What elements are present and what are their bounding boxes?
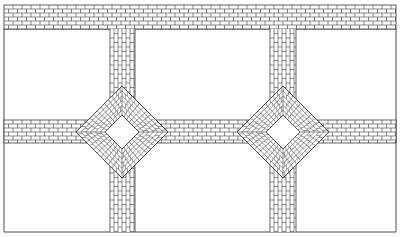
diamond-inset-2 [237, 86, 329, 178]
horizontal-brick-band [4, 120, 396, 143]
brick-paving-diagram [0, 0, 400, 237]
top-brick-band [4, 5, 396, 29]
diamond-inset-1 [76, 86, 168, 178]
